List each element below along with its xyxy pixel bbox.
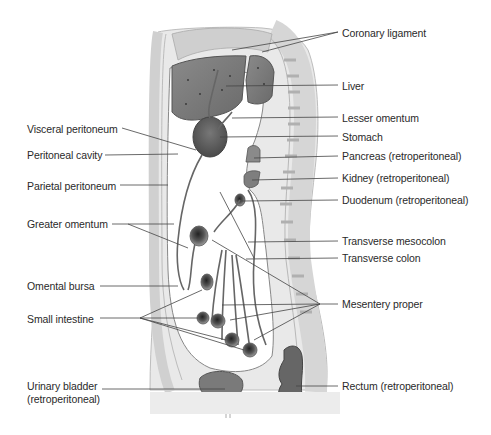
- label-urinary-bladder: Urinary bladder: [27, 380, 97, 392]
- label-transverse-mesocolon: Transverse mesocolon: [342, 235, 446, 247]
- label-liver: Liver: [342, 80, 364, 92]
- label-kidney: Kidney (retroperitoneal): [342, 172, 449, 184]
- label-urinary-bladder-retroperitoneal: (retroperitoneal): [27, 393, 100, 405]
- label-greater-omentum: Greater omentum: [27, 218, 108, 230]
- label-stomach: Stomach: [342, 131, 383, 143]
- label-pancreas: Pancreas (retroperitoneal): [342, 150, 461, 162]
- transverse-colon: [190, 226, 208, 246]
- label-transverse-colon: Transverse colon: [342, 252, 421, 264]
- label-rectum: Rectum (retroperitoneal): [342, 380, 453, 392]
- label-parietal-peritoneum: Parietal peritoneum: [27, 180, 116, 192]
- label-mesentery-proper: Mesentery proper: [342, 298, 423, 310]
- label-small-intestine: Small intestine: [27, 313, 94, 325]
- label-coronary-ligament: Coronary ligament: [342, 27, 426, 39]
- pancreas: [246, 146, 260, 162]
- label-lesser-omentum: Lesser omentum: [342, 112, 419, 124]
- label-visceral-peritoneum: Visceral peritoneum: [27, 123, 118, 135]
- label-peritoneal-cavity: Peritoneal cavity: [27, 149, 102, 161]
- label-duodenum: Duodenum (retroperitoneal): [342, 194, 468, 206]
- label-omental-bursa: Omental bursa: [27, 280, 95, 292]
